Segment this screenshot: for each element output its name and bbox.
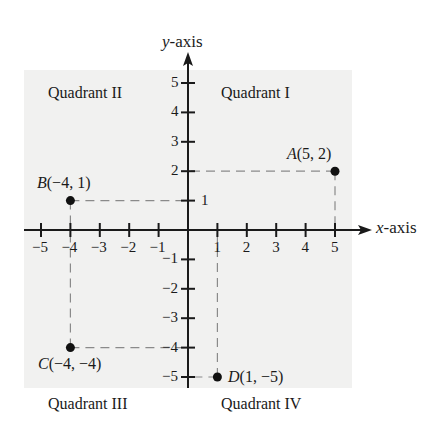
y-tick-label: −1 bbox=[162, 251, 178, 266]
point-a-label: A(5, 2) bbox=[287, 146, 331, 162]
quadrant-ii-label: Quadrant II bbox=[48, 85, 122, 101]
x-tick-label: 2 bbox=[243, 240, 251, 255]
x-tick-label: 4 bbox=[302, 240, 310, 255]
point-a-marker bbox=[331, 167, 340, 176]
y-tick-label: −5 bbox=[162, 369, 178, 384]
y-axis-label: y-axis bbox=[162, 33, 203, 50]
y-tick-label: 1 bbox=[201, 193, 209, 208]
y-tick-label: 2 bbox=[171, 163, 179, 178]
x-tick-label: −4 bbox=[61, 240, 77, 255]
y-tick-label: 4 bbox=[171, 104, 179, 119]
y-tick-label: 5 bbox=[171, 75, 179, 90]
x-tick-label: 3 bbox=[272, 240, 280, 255]
point-c-label: C(−4, −4) bbox=[38, 356, 101, 372]
y-tick-label: −4 bbox=[162, 340, 178, 355]
x-axis-label: x-axis bbox=[376, 219, 417, 236]
x-tick-label: −3 bbox=[91, 240, 107, 255]
y-tick-label: −2 bbox=[162, 281, 178, 296]
point-b-marker bbox=[66, 196, 75, 205]
point-d-marker bbox=[213, 373, 222, 382]
y-tick-label: 3 bbox=[171, 134, 179, 149]
point-d-label: D(1, −5) bbox=[228, 369, 283, 385]
quadrant-iv-label: Quadrant IV bbox=[221, 396, 301, 412]
point-b-label: B(−4, 1) bbox=[37, 175, 90, 191]
x-tick-label: −5 bbox=[32, 240, 48, 255]
x-tick-label: 5 bbox=[331, 240, 339, 255]
x-tick-label: 1 bbox=[213, 240, 221, 255]
quadrant-iii-label: Quadrant III bbox=[48, 396, 128, 412]
x-tick-label: −2 bbox=[120, 240, 136, 255]
y-tick-label: −3 bbox=[162, 310, 178, 325]
point-c-marker bbox=[66, 343, 75, 352]
quadrant-i-label: Quadrant I bbox=[221, 85, 290, 101]
